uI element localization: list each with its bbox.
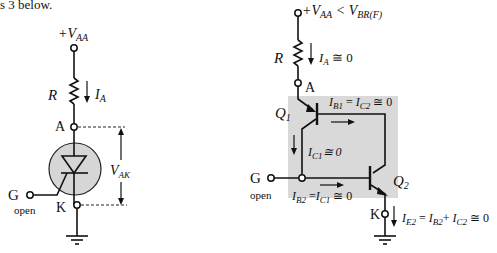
left-resistor-icon [70, 78, 78, 104]
q2-label: Q2 [393, 173, 409, 191]
right-resistor-icon [294, 40, 302, 66]
right-gate-open-label: open [250, 189, 272, 201]
right-gate-label: G [250, 170, 261, 186]
left-supply-label: +VAA [58, 26, 89, 43]
left-scr-circuit: +VAA R IA A G open K [8, 26, 138, 244]
left-gate-open-label: open [14, 204, 36, 216]
left-anode-terminal [71, 124, 77, 130]
left-cathode-label: K [56, 200, 66, 215]
left-cathode-terminal [74, 202, 80, 208]
left-gate-terminal [27, 192, 33, 198]
right-supply-terminal [295, 10, 301, 16]
right-gate-terminal [268, 175, 274, 181]
left-ground-icon [66, 236, 88, 244]
left-current-label: IA [94, 87, 107, 104]
left-gate-label: G [8, 187, 19, 203]
right-anode-label: A [305, 80, 316, 95]
scr-equivalent-circuits-diagram: s 3 below. +VAA R IA A G open K [0, 0, 497, 253]
ie2-equation: IE2 = IB2+ IC2 ≅ 0 [401, 211, 489, 227]
right-resistor-label: R [273, 50, 283, 66]
two-transistor-shaded-region [288, 96, 398, 198]
right-anode-terminal [295, 80, 301, 86]
right-current-label: IA ≅ 0 [318, 50, 353, 67]
left-anode-label: A [55, 119, 66, 134]
left-supply-terminal [71, 45, 77, 51]
gate-junction-node [299, 175, 305, 181]
right-two-transistor-model: +VAA < VBR(F) R IA ≅ 0 A Q1 IB1 = IC2 ≅ … [250, 3, 489, 244]
header-text-fragment: s 3 below. [0, 0, 52, 12]
right-cathode-label: K [370, 207, 380, 222]
right-cathode-terminal [382, 211, 388, 217]
right-supply-label: +VAA < VBR(F) [302, 3, 383, 21]
right-ground-icon [374, 236, 396, 244]
left-resistor-label: R [47, 87, 57, 103]
